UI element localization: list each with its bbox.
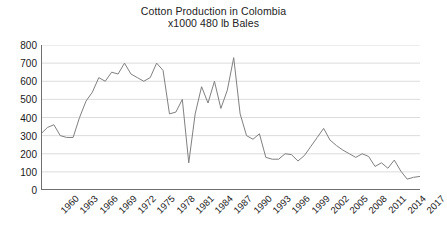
chart-title: Cotton Production in Colombia [0, 5, 427, 17]
x-tick-label: 2008 [367, 193, 390, 216]
gridlines [41, 45, 420, 172]
x-tick-label: 1975 [155, 193, 178, 216]
x-tick-label: 2002 [328, 193, 351, 216]
x-tick-label: 1993 [270, 193, 293, 216]
y-tick-label: 300 [3, 130, 37, 141]
x-axis: 1960196319661969197219751978198119841987… [41, 191, 420, 232]
plot-svg [41, 45, 420, 190]
chart-subtitle: x1000 480 lb Bales [0, 17, 427, 29]
y-tick-label: 800 [3, 40, 37, 51]
y-tick-label: 400 [3, 112, 37, 123]
x-tick-label: 1972 [135, 193, 158, 216]
x-tick-label: 1990 [251, 193, 274, 216]
x-tick-label: 1996 [289, 193, 312, 216]
y-tick-label: 0 [3, 185, 37, 196]
chart-title-block: Cotton Production in Colombia x1000 480 … [0, 5, 427, 29]
y-tick-label: 100 [3, 166, 37, 177]
y-tick-label: 200 [3, 148, 37, 159]
x-tick-label: 1963 [77, 193, 100, 216]
y-tick-label: 600 [3, 76, 37, 87]
x-tick-label: 2014 [405, 193, 428, 216]
x-tick-label: 1999 [309, 193, 332, 216]
x-tick-label: 1966 [97, 193, 120, 216]
x-tick-label: 2005 [347, 193, 370, 216]
y-axis: 8007006005004003002001000 [0, 45, 37, 190]
y-tick-label: 500 [3, 94, 37, 105]
plot-area [41, 45, 420, 190]
x-tick-label: 1969 [116, 193, 139, 216]
x-tick-label: 2017 [424, 193, 447, 216]
data-series-line [41, 58, 420, 179]
x-tick-label: 1978 [174, 193, 197, 216]
y-tick-label: 700 [3, 58, 37, 69]
x-tick-label: 1984 [212, 193, 235, 216]
x-tick-label: 1987 [232, 193, 255, 216]
x-tick-label: 1960 [58, 193, 81, 216]
x-tick-label: 2011 [386, 193, 408, 215]
x-tick-label: 1981 [193, 193, 216, 216]
